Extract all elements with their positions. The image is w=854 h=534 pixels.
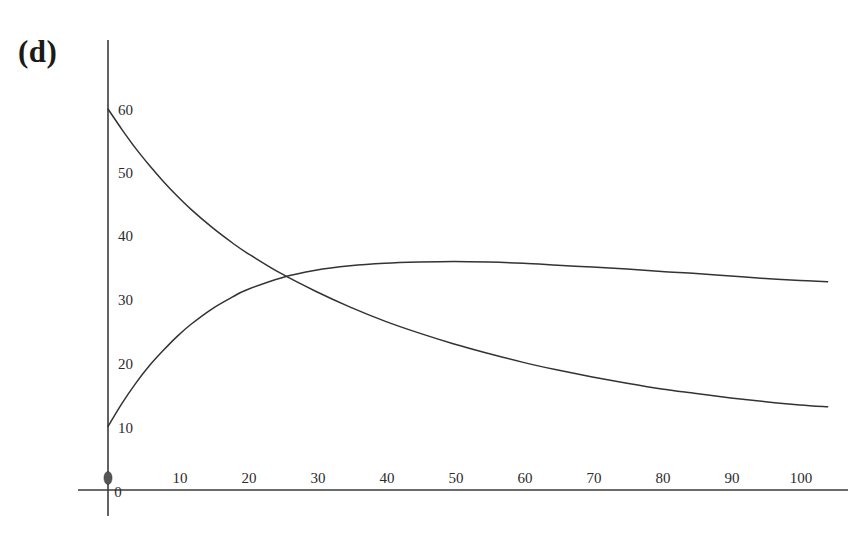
curve-decaying [108,109,828,407]
y-tick-label-60: 60 [118,102,133,118]
figure-panel: (d) 0 10 20 30 40 50 60 70 80 90 100 10 … [0,0,854,534]
x-tick-labels-group: 0 10 20 30 40 50 60 70 80 90 100 [114,470,812,500]
x-tick-label-100: 100 [790,470,813,486]
curve-rising [108,261,828,426]
x-tick-label-90: 90 [725,470,740,486]
y-tick-label-20: 20 [118,356,133,372]
x-tick-label-80: 80 [656,470,671,486]
origin-marker-dot [104,472,112,485]
x-tick-label-10: 10 [173,470,188,486]
y-tick-label-30: 30 [118,292,133,308]
axes-group [78,40,848,516]
series-group [108,109,828,427]
x-tick-label-0: 0 [114,484,122,500]
chart-canvas: 0 10 20 30 40 50 60 70 80 90 100 10 20 3… [0,0,854,534]
x-tick-label-40: 40 [380,470,395,486]
y-tick-label-40: 40 [118,228,133,244]
x-tick-label-30: 30 [311,470,326,486]
x-tick-label-70: 70 [587,470,602,486]
y-tick-label-10: 10 [118,420,133,436]
x-tick-label-50: 50 [449,470,464,486]
y-tick-label-50: 50 [118,165,133,181]
x-tick-label-20: 20 [242,470,257,486]
x-tick-label-60: 60 [518,470,533,486]
y-tick-labels-group: 10 20 30 40 50 60 [118,102,133,436]
